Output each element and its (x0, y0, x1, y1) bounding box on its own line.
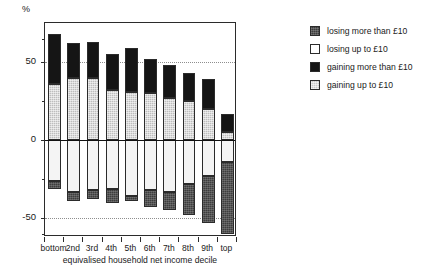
bar-4th (106, 23, 119, 235)
x-tick-4 (121, 237, 122, 242)
legend-item-gain-up: gaining up to £10 (310, 76, 430, 94)
legend-label-gain-up: gaining up to £10 (327, 81, 393, 90)
segment-lose-up-8th (183, 140, 196, 184)
bar-3rd (87, 23, 100, 235)
bar-7th (163, 23, 176, 235)
segment-lose-more-bottom (48, 181, 61, 189)
legend-swatch-lose-more (310, 26, 320, 36)
y-tick-label--50: -50 (8, 212, 36, 222)
segment-lose-more-7th (163, 192, 176, 211)
segment-lose-up-6th (144, 140, 157, 190)
segment-gain-more-3rd (87, 42, 100, 78)
segment-lose-more-5th (125, 196, 138, 201)
bar-bottom (48, 23, 61, 235)
segment-gain-up-3rd (87, 78, 100, 140)
x-tick-9 (217, 237, 218, 242)
x-axis-title: equivalised household net income decile (44, 256, 236, 265)
segment-lose-up-9th (202, 140, 215, 176)
segment-lose-more-3rd (87, 190, 100, 199)
bar-8th (183, 23, 196, 235)
bar-6th (144, 23, 157, 235)
legend-item-lose-more: losing more than £10 (310, 22, 430, 40)
segment-lose-up-top (221, 140, 234, 162)
segment-gain-more-9th (202, 79, 215, 109)
x-tick-8 (198, 237, 199, 242)
segment-lose-up-2nd (67, 140, 80, 192)
bar-9th (202, 23, 215, 235)
x-tick-1 (63, 237, 64, 242)
segment-lose-more-4th (106, 189, 119, 203)
chart-container: % 500-50 bottom2nd3rd4th5th6th7th8th9tht… (0, 0, 430, 279)
segment-lose-up-bottom (48, 140, 61, 181)
legend-item-gain-more: gaining more than £10 (310, 58, 430, 76)
y-tick-label-0: 0 (8, 134, 36, 144)
segment-gain-more-7th (163, 65, 176, 98)
segment-lose-more-8th (183, 184, 196, 215)
segment-gain-up-top (221, 132, 234, 140)
x-tick-10 (236, 237, 237, 242)
segment-gain-up-8th (183, 101, 196, 140)
bar-top (221, 23, 234, 235)
bar-2nd (67, 23, 80, 235)
x-tick-0 (44, 237, 45, 242)
legend-label-lose-more: losing more than £10 (327, 27, 407, 36)
bar-series-group (45, 23, 235, 235)
y-tick-label-50: 50 (8, 56, 36, 66)
segment-lose-more-2nd (67, 192, 80, 201)
segment-lose-up-7th (163, 140, 176, 192)
x-tick-3 (102, 237, 103, 242)
segment-lose-more-top (221, 162, 234, 234)
segment-lose-more-9th (202, 176, 215, 223)
legend-item-lose-up: losing up to £10 (310, 40, 430, 58)
segment-gain-more-5th (125, 48, 138, 92)
zero-baseline (45, 140, 235, 141)
x-tick-6 (159, 237, 160, 242)
segment-gain-more-top (221, 114, 234, 133)
plot-area (44, 22, 236, 236)
segment-lose-up-3rd (87, 140, 100, 190)
legend-swatch-lose-up (310, 44, 320, 54)
segment-gain-up-4th (106, 90, 119, 140)
segment-gain-up-6th (144, 93, 157, 140)
segment-gain-more-4th (106, 54, 119, 90)
segment-lose-up-5th (125, 140, 138, 196)
y-axis-unit-label: % (22, 4, 30, 14)
bar-5th (125, 23, 138, 235)
legend-swatch-gain-up (310, 80, 320, 90)
x-tick-5 (140, 237, 141, 242)
legend-swatch-gain-more (310, 62, 320, 72)
segment-gain-more-bottom (48, 34, 61, 84)
x-tick-2 (82, 237, 83, 242)
segment-lose-more-6th (144, 190, 157, 207)
segment-gain-up-bottom (48, 84, 61, 140)
legend-label-gain-more: gaining more than £10 (327, 63, 413, 72)
segment-gain-more-2nd (67, 43, 80, 77)
segment-gain-up-7th (163, 98, 176, 140)
segment-gain-more-8th (183, 73, 196, 101)
segment-gain-up-5th (125, 92, 138, 140)
segment-gain-up-2nd (67, 78, 80, 140)
segment-gain-more-6th (144, 59, 157, 93)
segment-gain-up-9th (202, 109, 215, 140)
legend-label-lose-up: losing up to £10 (327, 45, 388, 54)
segment-lose-up-4th (106, 140, 119, 188)
x-tick-label-top: top (206, 244, 246, 253)
chart-legend: losing more than £10losing up to £10gain… (310, 22, 430, 94)
x-tick-7 (178, 237, 179, 242)
